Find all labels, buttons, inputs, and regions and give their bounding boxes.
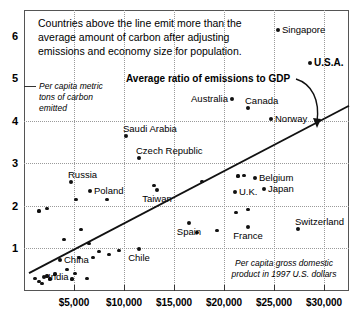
data-point xyxy=(37,209,40,212)
point-label-chile: Chile xyxy=(128,253,150,263)
data-point xyxy=(200,180,203,183)
chart-caption: Countries above the line emit more than … xyxy=(38,16,242,59)
point-label-india: India xyxy=(48,272,69,282)
data-point xyxy=(79,228,82,231)
caption-line-3: emissions and economy size for populatio… xyxy=(38,44,242,58)
data-point xyxy=(85,277,88,280)
x-tick-mark xyxy=(174,285,175,291)
caption-line-2: average amount of carbon after adjusting xyxy=(38,30,242,44)
point-label-australia: Australia xyxy=(191,94,228,104)
point-label-japan: Japan xyxy=(268,184,294,194)
point-label-poland: Poland xyxy=(94,186,124,196)
data-point xyxy=(246,106,250,110)
x-axis-note-line-2: product in 1997 U.S. dollars xyxy=(226,269,342,280)
data-point xyxy=(152,184,155,187)
data-point xyxy=(269,117,273,121)
x-tick-mark xyxy=(124,285,125,291)
data-point xyxy=(88,189,92,193)
y-tick-label: 2 xyxy=(0,200,18,212)
data-point xyxy=(246,208,249,211)
y-axis-note-line-2: tons of carbon xyxy=(39,92,103,103)
data-point xyxy=(73,272,76,275)
data-point xyxy=(74,198,77,201)
x-tick-mark xyxy=(74,285,75,291)
gridline-horizontal xyxy=(24,163,349,164)
x-tick-mark xyxy=(274,285,275,291)
y-tick-label: 3 xyxy=(0,157,18,169)
data-point xyxy=(236,174,239,177)
y-tick-label: 1 xyxy=(0,242,18,254)
x-tick-mark xyxy=(224,285,225,291)
point-label-u-k: U.K. xyxy=(239,187,257,197)
point-label-taiwan: Taiwan xyxy=(142,194,172,204)
point-label-switzerland: Switzerland xyxy=(295,217,344,227)
data-point xyxy=(124,134,128,138)
x-axis-note-line-1: Per capita gross domestic xyxy=(226,258,342,269)
point-label-norway: Norway xyxy=(275,114,307,124)
data-point xyxy=(215,229,218,232)
point-label-spain: Spain xyxy=(177,227,201,237)
point-label-russia: Russia xyxy=(68,170,97,180)
data-point xyxy=(40,282,43,285)
data-point xyxy=(155,188,159,192)
x-tick-mark xyxy=(324,285,325,291)
point-label-singapore: Singapore xyxy=(282,25,325,35)
data-point xyxy=(262,187,266,191)
y-tick-label: 6 xyxy=(0,30,18,42)
data-point xyxy=(242,174,245,177)
gridline-horizontal xyxy=(24,206,349,207)
point-label-belgium: Belgium xyxy=(259,173,293,183)
data-point xyxy=(117,249,120,252)
data-point xyxy=(33,277,36,280)
data-point xyxy=(87,242,90,245)
y-axis-note: Per capita metric tons of carbon emitted xyxy=(39,81,103,114)
point-label-czech-republic: Czech Republic xyxy=(136,146,203,156)
point-label-china: China xyxy=(64,255,89,265)
x-tick-label: $30,000 xyxy=(294,297,354,308)
point-label-saudi-arabia: Saudi Arabia xyxy=(123,124,177,134)
y-axis-note-line-3: emitted xyxy=(39,103,103,114)
gridline-horizontal xyxy=(24,248,349,249)
y-axis-note-leader xyxy=(24,86,36,87)
data-point xyxy=(187,221,191,225)
point-label-france: France xyxy=(233,231,263,241)
trendline-label: Average ratio of emissions to GDP xyxy=(126,73,290,84)
carbon-emissions-scatter-chart: $5,000$10,000$15,000$20,000$25,000$30,00… xyxy=(0,0,362,322)
data-point xyxy=(234,211,237,214)
data-point xyxy=(105,198,108,201)
y-tick-label: 4 xyxy=(0,115,18,127)
caption-line-1: Countries above the line emit more than … xyxy=(38,16,242,30)
y-axis-note-line-1: Per capita metric xyxy=(39,81,103,92)
data-point xyxy=(70,277,73,280)
x-axis-note: Per capita gross domestic product in 199… xyxy=(226,258,342,281)
point-label-canada: Canada xyxy=(245,96,278,106)
point-label-u-s-a: U.S.A. xyxy=(314,58,343,68)
y-tick-label: 5 xyxy=(0,72,18,84)
